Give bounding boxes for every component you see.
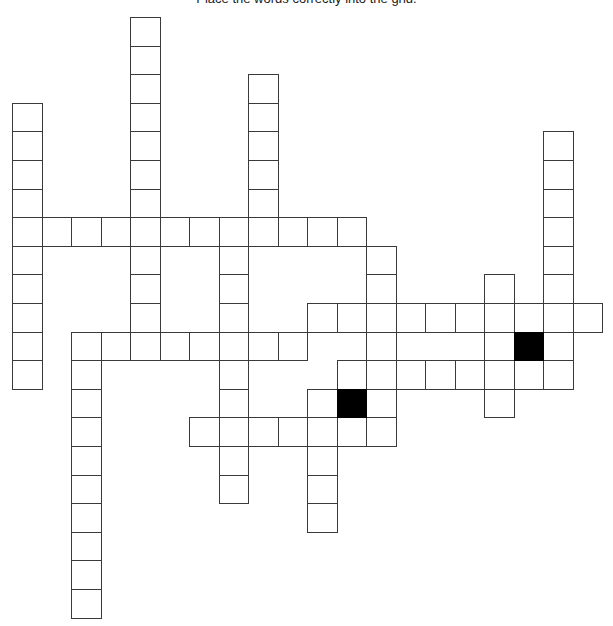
grid-cell[interactable]	[160, 332, 191, 362]
grid-cell[interactable]	[337, 360, 368, 390]
grid-cell[interactable]	[130, 74, 161, 104]
grid-cell[interactable]	[12, 189, 43, 219]
grid-cell[interactable]	[248, 189, 279, 219]
grid-cell[interactable]	[71, 332, 102, 362]
grid-cell[interactable]	[543, 246, 574, 276]
grid-cell[interactable]	[514, 360, 545, 390]
grid-cell[interactable]	[337, 303, 368, 333]
grid-cell[interactable]	[130, 103, 161, 133]
grid-cell[interactable]	[71, 389, 102, 419]
grid-cell[interactable]	[366, 332, 397, 362]
grid-cell[interactable]	[219, 217, 250, 247]
grid-cell[interactable]	[543, 217, 574, 247]
grid-cell[interactable]	[248, 74, 279, 104]
grid-cell[interactable]	[12, 217, 43, 247]
grid-cell[interactable]	[278, 332, 309, 362]
grid-cell[interactable]	[12, 332, 43, 362]
grid-cell[interactable]	[484, 360, 515, 390]
grid-cell[interactable]	[484, 274, 515, 304]
grid-cell[interactable]	[219, 446, 250, 476]
grid-cell[interactable]	[130, 332, 161, 362]
grid-cell[interactable]	[130, 17, 161, 47]
grid-cell[interactable]	[71, 417, 102, 447]
grid-cell[interactable]	[189, 217, 220, 247]
grid-cell[interactable]	[160, 217, 191, 247]
grid-cell[interactable]	[396, 303, 427, 333]
grid-cell[interactable]	[366, 246, 397, 276]
grid-cell[interactable]	[12, 160, 43, 190]
grid-cell[interactable]	[455, 360, 486, 390]
grid-cell[interactable]	[248, 131, 279, 161]
grid-cell[interactable]	[543, 189, 574, 219]
grid-cell[interactable]	[484, 303, 515, 333]
grid-cell[interactable]	[130, 131, 161, 161]
grid-cell[interactable]	[278, 417, 309, 447]
grid-cell[interactable]	[248, 217, 279, 247]
grid-cell[interactable]	[307, 217, 338, 247]
grid-cell[interactable]	[12, 360, 43, 390]
grid-cell[interactable]	[425, 360, 456, 390]
grid-cell[interactable]	[130, 274, 161, 304]
grid-cell[interactable]	[101, 332, 132, 362]
grid-cell[interactable]	[130, 189, 161, 219]
grid-cell[interactable]	[219, 274, 250, 304]
grid-cell[interactable]	[71, 503, 102, 533]
grid-cell[interactable]	[130, 160, 161, 190]
grid-cell[interactable]	[71, 475, 102, 505]
grid-cell[interactable]	[71, 532, 102, 562]
grid-cell[interactable]	[484, 389, 515, 419]
grid-cell[interactable]	[248, 160, 279, 190]
grid-cell[interactable]	[455, 303, 486, 333]
grid-cell[interactable]	[366, 360, 397, 390]
grid-cell[interactable]	[366, 303, 397, 333]
grid-cell[interactable]	[42, 217, 73, 247]
grid-cell[interactable]	[307, 417, 338, 447]
grid-cell[interactable]	[543, 332, 574, 362]
grid-cell[interactable]	[12, 303, 43, 333]
grid-cell[interactable]	[366, 274, 397, 304]
grid-cell[interactable]	[71, 560, 102, 590]
grid-cell[interactable]	[278, 217, 309, 247]
grid-cell[interactable]	[484, 332, 515, 362]
grid-cell[interactable]	[219, 475, 250, 505]
grid-cell[interactable]	[71, 589, 102, 619]
grid-cell[interactable]	[219, 360, 250, 390]
grid-cell[interactable]	[543, 303, 574, 333]
grid-cell[interactable]	[219, 417, 250, 447]
grid-cell[interactable]	[71, 446, 102, 476]
grid-cell[interactable]	[337, 217, 368, 247]
grid-cell[interactable]	[12, 274, 43, 304]
grid-cell[interactable]	[130, 246, 161, 276]
grid-cell[interactable]	[307, 389, 338, 419]
grid-cell[interactable]	[130, 46, 161, 76]
grid-cell[interactable]	[366, 417, 397, 447]
grid-cell[interactable]	[130, 217, 161, 247]
grid-cell[interactable]	[219, 389, 250, 419]
grid-cell[interactable]	[130, 303, 161, 333]
grid-cell[interactable]	[248, 332, 279, 362]
grid-cell[interactable]	[543, 274, 574, 304]
grid-cell[interactable]	[189, 332, 220, 362]
grid-cell[interactable]	[307, 303, 338, 333]
grid-cell[interactable]	[12, 103, 43, 133]
grid-cell[interactable]	[219, 303, 250, 333]
grid-cell[interactable]	[425, 303, 456, 333]
grid-cell[interactable]	[307, 475, 338, 505]
grid-cell[interactable]	[219, 246, 250, 276]
grid-cell[interactable]	[12, 131, 43, 161]
grid-cell[interactable]	[219, 332, 250, 362]
grid-cell[interactable]	[307, 446, 338, 476]
grid-cell[interactable]	[366, 389, 397, 419]
grid-cell[interactable]	[71, 360, 102, 390]
grid-cell[interactable]	[12, 246, 43, 276]
grid-cell[interactable]	[248, 417, 279, 447]
grid-cell[interactable]	[543, 131, 574, 161]
grid-cell[interactable]	[396, 360, 427, 390]
grid-cell[interactable]	[307, 503, 338, 533]
grid-cell[interactable]	[543, 160, 574, 190]
grid-cell[interactable]	[71, 217, 102, 247]
grid-cell[interactable]	[101, 217, 132, 247]
grid-cell[interactable]	[514, 303, 545, 333]
grid-cell[interactable]	[543, 360, 574, 390]
grid-cell[interactable]	[189, 417, 220, 447]
